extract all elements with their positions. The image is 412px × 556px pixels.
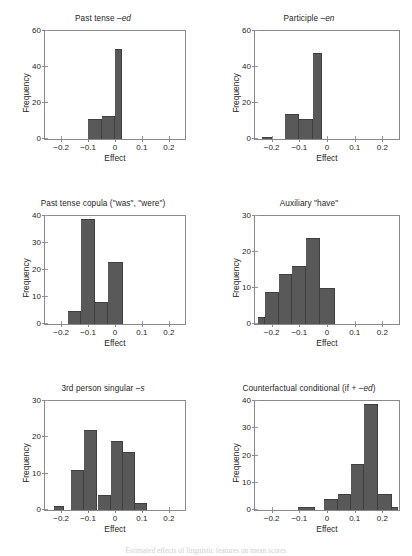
x-tick-mark bbox=[355, 139, 356, 142]
histogram-bar bbox=[338, 494, 352, 510]
histogram-panel: Participle –enFrequencyEffect0204060−0.2… bbox=[206, 0, 412, 185]
histogram-bar bbox=[102, 116, 115, 139]
x-tick-mark bbox=[327, 139, 328, 142]
histogram-panel: Auxiliary "have"FrequencyEffect0102030−0… bbox=[206, 185, 412, 370]
histogram-bar bbox=[71, 470, 84, 510]
histogram-bar bbox=[364, 404, 378, 510]
x-tick-label: 0.2 bbox=[377, 515, 388, 523]
histogram-bar bbox=[378, 494, 392, 510]
x-tick-mark bbox=[299, 139, 300, 142]
x-tick-label: 0 bbox=[113, 515, 117, 523]
y-tick-label: 20 bbox=[32, 266, 41, 274]
y-axis-label: Frequency bbox=[21, 443, 31, 483]
histogram-bar bbox=[298, 507, 315, 510]
histogram-bar bbox=[84, 430, 97, 510]
x-tick-label: −0.1 bbox=[291, 329, 307, 337]
bar-series bbox=[45, 401, 185, 510]
histogram-bar bbox=[313, 53, 322, 139]
x-tick-label: 0.2 bbox=[377, 144, 388, 152]
y-tick-label: 40 bbox=[242, 63, 251, 71]
y-tick-label: 40 bbox=[32, 212, 41, 220]
y-tick-label: 20 bbox=[242, 452, 251, 460]
histogram-bar bbox=[95, 302, 108, 324]
bar-series bbox=[255, 401, 399, 510]
plot-area: 0102030−0.2−0.100.10.2 bbox=[44, 400, 186, 511]
x-tick-label: 0.1 bbox=[349, 515, 360, 523]
y-tick-label: 30 bbox=[242, 424, 251, 432]
x-tick-mark bbox=[61, 510, 62, 513]
x-tick-mark bbox=[382, 510, 383, 513]
x-tick-mark bbox=[355, 510, 356, 513]
histogram-bar bbox=[68, 311, 81, 325]
panel-title: Past tense –ed bbox=[0, 14, 206, 23]
x-tick-label: 0 bbox=[325, 329, 329, 337]
x-tick-mark bbox=[169, 324, 170, 327]
histogram-bar bbox=[123, 452, 135, 510]
x-tick-mark bbox=[272, 324, 273, 327]
bar-series bbox=[45, 31, 185, 139]
histogram-bar bbox=[115, 49, 122, 139]
histogram-bar bbox=[98, 495, 111, 510]
x-tick-label: 0 bbox=[325, 515, 329, 523]
bar-series bbox=[255, 216, 399, 324]
figure-caption: Estimated effects of linguistic features… bbox=[0, 546, 412, 556]
x-tick-label: −0.1 bbox=[291, 515, 307, 523]
panel-title-italic: ed bbox=[122, 14, 131, 23]
x-tick-mark bbox=[272, 139, 273, 142]
y-tick-label: 20 bbox=[242, 248, 251, 256]
x-tick-label: 0 bbox=[325, 144, 329, 152]
histogram-bar bbox=[258, 317, 265, 324]
y-tick-label: 10 bbox=[32, 293, 41, 301]
y-tick-label: 30 bbox=[242, 212, 251, 220]
x-tick-label: −0.2 bbox=[264, 515, 280, 523]
y-tick-label: 20 bbox=[32, 433, 41, 441]
x-tick-label: −0.2 bbox=[53, 329, 69, 337]
bar-series bbox=[45, 216, 185, 324]
x-tick-label: 0.2 bbox=[163, 144, 174, 152]
panel-title: Counterfactual conditional (if + –ed) bbox=[206, 384, 412, 393]
histogram-panel: Counterfactual conditional (if + –ed)Fre… bbox=[206, 370, 412, 556]
panel-title-italic: ed bbox=[363, 384, 372, 393]
plot-area: 0204060−0.2−0.100.10.2 bbox=[254, 30, 400, 140]
histogram-bar bbox=[88, 119, 101, 139]
x-tick-mark bbox=[327, 510, 328, 513]
y-tick-label: 10 bbox=[242, 479, 251, 487]
x-tick-mark bbox=[88, 324, 89, 327]
plot-area: 0102030−0.2−0.100.10.2 bbox=[254, 215, 400, 325]
x-tick-mark bbox=[142, 324, 143, 327]
histogram-bar bbox=[292, 266, 306, 324]
y-tick-label: 0 bbox=[37, 135, 41, 143]
panel-title: Auxiliary "have" bbox=[206, 199, 412, 208]
panel-title-italic: en bbox=[325, 14, 334, 23]
plot-area: 010203040−0.2−0.100.10.2 bbox=[254, 400, 400, 511]
histogram-bar bbox=[285, 114, 299, 139]
histogram-bar bbox=[265, 292, 279, 324]
x-tick-label: 0.2 bbox=[163, 515, 174, 523]
histogram-bar bbox=[299, 119, 313, 139]
histogram-bar bbox=[320, 288, 335, 324]
histogram-bar bbox=[111, 441, 123, 510]
x-tick-mark bbox=[115, 324, 116, 327]
panel-title: 3rd person singular –s bbox=[0, 384, 206, 393]
x-tick-label: −0.2 bbox=[53, 144, 69, 152]
x-tick-label: −0.2 bbox=[264, 329, 280, 337]
x-tick-label: 0.1 bbox=[349, 144, 360, 152]
x-tick-label: 0.1 bbox=[136, 329, 147, 337]
x-axis-label: Effect bbox=[44, 338, 186, 348]
y-tick-label: 40 bbox=[242, 397, 251, 405]
x-tick-mark bbox=[169, 510, 170, 513]
histogram-panel: Past tense copula ("was", "were")Frequen… bbox=[0, 185, 206, 370]
x-tick-mark bbox=[382, 139, 383, 142]
x-tick-label: −0.1 bbox=[80, 144, 96, 152]
y-tick-label: 20 bbox=[32, 99, 41, 107]
x-tick-mark bbox=[61, 324, 62, 327]
y-tick-label: 0 bbox=[247, 135, 251, 143]
y-axis-label: Frequency bbox=[231, 443, 241, 483]
x-tick-mark bbox=[327, 324, 328, 327]
y-axis-label: Frequency bbox=[21, 73, 31, 113]
histogram-bar bbox=[306, 238, 320, 324]
histogram-bar bbox=[262, 137, 272, 139]
y-axis-label: Frequency bbox=[231, 258, 241, 298]
y-tick-label: 0 bbox=[247, 320, 251, 328]
histogram-bar bbox=[279, 274, 293, 324]
